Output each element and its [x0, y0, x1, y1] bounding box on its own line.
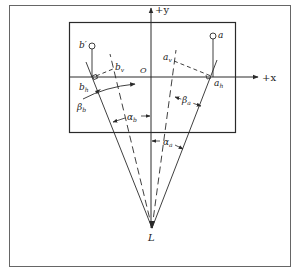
photogrammetry-angle-diagram: +x +y O L a ah av βa βa b′ bh bv βb αb α… [0, 0, 298, 271]
outer-frame [10, 6, 291, 267]
ray-b-solid [86, 62, 152, 228]
point-a-label: a [218, 30, 223, 40]
point-L-label: L [147, 232, 155, 243]
ray-b-dashed [110, 54, 152, 228]
point-a [210, 33, 216, 39]
beta-b-label: βb [76, 102, 86, 113]
ray-a-solid [152, 60, 217, 228]
b-v-perpendicular [96, 69, 113, 76]
x-axis-label: +x [262, 72, 276, 83]
L-point-arrow [149, 221, 155, 229]
alpha-a-label: αa [163, 137, 173, 148]
point-b-prime-label: b′ [79, 40, 87, 50]
beta-b-arc [83, 84, 135, 99]
origin-label: O [140, 66, 147, 75]
a-v-perpendicular [174, 61, 211, 76]
alpha-b-label: αb [127, 112, 137, 123]
point-a-v-label: av [163, 52, 172, 63]
alpha-a-arrow-right [175, 145, 183, 149]
point-b-v-label: bv [115, 62, 125, 73]
y-axis-label: +y [155, 4, 169, 15]
point-a-h-label: ah [214, 78, 223, 89]
point-b-h-label: bh [79, 82, 89, 93]
point-b-prime [89, 43, 95, 49]
alpha-b-arrow [113, 118, 125, 122]
